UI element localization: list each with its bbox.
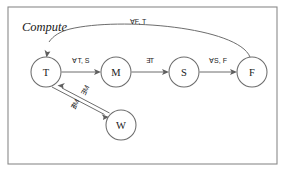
- node-T[interactable]: T: [31, 57, 61, 87]
- arrow-head-icon: [45, 50, 51, 58]
- state-diagram: Compute ∀T, S ∃T ∀S, F: [0, 0, 289, 176]
- edge-s-to-f: ∀S, F: [200, 57, 238, 75]
- node-label-T: T: [43, 67, 50, 78]
- node-label-M: M: [111, 67, 121, 78]
- edge-label-f-t: ∀F, T: [130, 18, 147, 25]
- edge-group: ∀T, S ∃T ∀S, F ∀F, T: [45, 18, 250, 120]
- edge-label-s-f: ∀S, F: [209, 57, 227, 64]
- node-label-F: F: [249, 67, 255, 78]
- node-F[interactable]: F: [237, 57, 267, 87]
- node-label-S: S: [181, 67, 187, 78]
- edge-w-to-t: ∃M: [58, 83, 110, 113]
- arrow-head-icon: [58, 83, 65, 89]
- figure-canvas: Compute ∀T, S ∃T ∀S, F: [0, 0, 289, 176]
- edge-label-t-m: ∀T, S: [72, 57, 89, 64]
- node-S[interactable]: S: [169, 57, 199, 87]
- node-W[interactable]: W: [106, 110, 136, 140]
- edge-f-to-t: ∀F, T: [45, 18, 250, 58]
- edge-m-to-s: ∃T: [132, 57, 170, 75]
- edge-t-to-m: ∀T, S: [62, 57, 102, 75]
- edge-arc-f-t: [49, 24, 250, 57]
- edge-label-m-s: ∃T: [146, 57, 155, 64]
- edge-label-t-w: ∄M: [70, 98, 81, 110]
- node-label-W: W: [116, 120, 126, 131]
- node-M[interactable]: M: [101, 57, 131, 87]
- edge-label-w-t: ∃M: [80, 84, 91, 96]
- node-group: T M S F W: [31, 57, 267, 140]
